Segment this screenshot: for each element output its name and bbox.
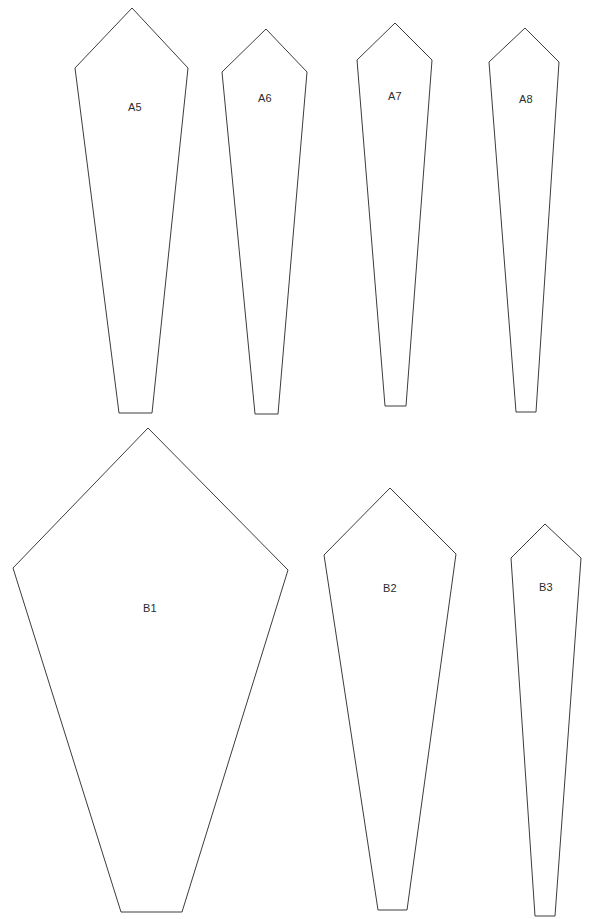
pattern-piece-a6[interactable]: A6 [222,29,307,414]
pattern-piece-a5[interactable]: A5 [75,8,188,413]
pattern-piece-a8[interactable]: A8 [489,28,559,412]
piece-outline-a8[interactable] [489,28,559,412]
pattern-piece-a7[interactable]: A7 [357,23,432,406]
piece-label-a5: A5 [128,101,142,113]
piece-group-b: B1 B2 B3 [13,428,581,916]
pattern-canvas: A5 A6 A7 A8 B1 B2 [0,0,601,919]
piece-label-b2: B2 [383,582,397,594]
piece-group-a: A5 A6 A7 A8 [75,8,559,414]
pattern-piece-b2[interactable]: B2 [324,488,456,910]
pattern-piece-b3[interactable]: B3 [511,524,581,916]
piece-label-b3: B3 [539,581,553,593]
piece-label-b1: B1 [143,602,157,614]
piece-outline-a5[interactable] [75,8,188,413]
piece-label-a8: A8 [519,93,533,105]
piece-outline-a7[interactable] [357,23,432,406]
pattern-piece-b1[interactable]: B1 [13,428,288,912]
pattern-sheet: A5 A6 A7 A8 B1 B2 [0,0,601,919]
piece-outline-b1[interactable] [13,428,288,912]
piece-label-a7: A7 [388,90,402,102]
piece-outline-b2[interactable] [324,488,456,910]
piece-label-a6: A6 [258,92,272,104]
piece-outline-a6[interactable] [222,29,307,414]
